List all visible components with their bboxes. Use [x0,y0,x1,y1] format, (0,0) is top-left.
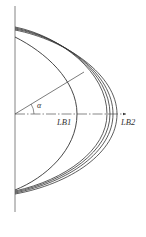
curve-outer-2 [15,28,110,192]
curve-lb2 [15,30,117,194]
curve-lb1 [15,37,77,190]
angle-ray [15,72,84,114]
curve-outer-1 [15,27,107,191]
label-lb2: LB2 [120,117,136,127]
label-lb1: LB1 [56,117,71,127]
angle-arc [31,104,34,114]
curve-outer-3 [15,29,113,193]
angle-label: α [37,101,42,110]
diagram-canvas: α LB1 LB2 [0,0,146,237]
